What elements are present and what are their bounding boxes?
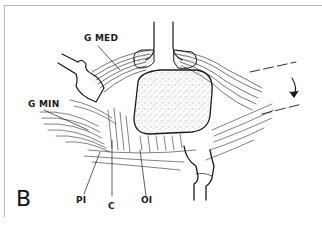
label-c: C: [108, 201, 115, 211]
femoral-head: [134, 70, 212, 134]
left-retractor: [58, 54, 104, 102]
limb-outline-dashed: [250, 62, 302, 114]
label-oi: OI: [141, 195, 152, 205]
bone-fragment-right: [174, 50, 197, 69]
lower-retractor: [184, 146, 214, 200]
label-g-min: G MIN: [28, 99, 59, 109]
rotation-arrow-icon: [290, 78, 298, 97]
label-leader-lines: [44, 46, 146, 196]
panel-letter: B: [16, 188, 31, 210]
bone-fragment-left: [134, 50, 154, 68]
label-pi: PI: [76, 195, 86, 205]
label-g-med: G MED: [84, 33, 118, 43]
